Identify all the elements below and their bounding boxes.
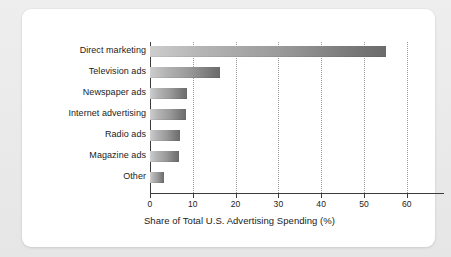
tick-label-30: 30 (274, 199, 284, 209)
gridline-30 (278, 42, 279, 193)
tick-label-40: 40 (316, 199, 326, 209)
bar-direct-marketing (150, 46, 386, 57)
gridline-40 (321, 42, 322, 193)
figure-root: Direct marketing Television ads Newspape… (0, 0, 451, 257)
category-label-radio-ads: Radio ads (105, 129, 146, 139)
x-axis-title: Share of Total U.S. Advertising Spending… (22, 215, 435, 226)
category-label-magazine-ads: Magazine ads (89, 150, 146, 160)
tick-label-0: 0 (148, 199, 153, 209)
category-axis-labels: Direct marketing Television ads Newspape… (22, 9, 146, 193)
category-label-television-ads: Television ads (89, 66, 146, 76)
x-axis-line (150, 193, 444, 194)
gridline-10 (193, 42, 194, 193)
tick-mark-30 (278, 193, 279, 198)
gridline-60 (407, 42, 408, 193)
tick-label-10: 10 (188, 199, 198, 209)
tick-label-20: 20 (231, 199, 241, 209)
x-axis-title-text: Share of Total U.S. Advertising Spending… (144, 215, 335, 226)
tick-label-50: 50 (359, 199, 369, 209)
gridline-50 (364, 42, 365, 193)
category-label-other: Other (123, 171, 146, 181)
bar-radio-ads (150, 130, 180, 141)
tick-mark-40 (321, 193, 322, 198)
plot-area (150, 42, 450, 193)
tick-mark-50 (364, 193, 365, 198)
tick-mark-10 (193, 193, 194, 198)
bar-television-ads (150, 67, 220, 78)
tick-mark-60 (407, 193, 408, 198)
category-label-direct-marketing: Direct marketing (80, 45, 146, 55)
chart-panel: Direct marketing Television ads Newspape… (22, 9, 435, 247)
bar-magazine-ads (150, 151, 179, 162)
category-label-newspaper-ads: Newspaper ads (83, 87, 146, 97)
bar-other (150, 172, 164, 183)
bar-newspaper-ads (150, 88, 187, 99)
gridline-20 (236, 42, 237, 193)
tick-mark-20 (236, 193, 237, 198)
bar-internet-advertising (150, 109, 186, 120)
tick-label-60: 60 (402, 199, 412, 209)
tick-mark-0 (150, 193, 151, 198)
category-label-internet-advertising: Internet advertising (68, 108, 146, 118)
